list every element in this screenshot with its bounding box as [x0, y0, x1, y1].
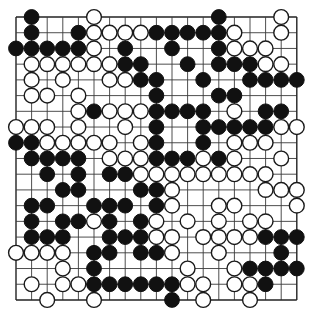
black-stone [258, 230, 273, 245]
white-stone [227, 151, 242, 166]
white-stone [71, 57, 86, 72]
black-stone [118, 230, 133, 245]
white-stone [118, 72, 133, 87]
black-stone [102, 277, 117, 292]
white-stone [133, 104, 148, 119]
white-stone [40, 245, 55, 260]
white-stone [71, 104, 86, 119]
white-stone [55, 261, 70, 276]
black-stone [211, 88, 226, 103]
white-stone [243, 167, 258, 182]
white-stone [165, 198, 180, 213]
white-stone [227, 230, 242, 245]
white-stone [87, 10, 102, 25]
white-stone [165, 167, 180, 182]
white-stone [180, 277, 195, 292]
go-board [0, 0, 312, 315]
white-stone [24, 120, 39, 135]
white-stone [196, 277, 211, 292]
white-stone [227, 277, 242, 292]
black-stone [133, 183, 148, 198]
black-stone [196, 135, 211, 150]
black-stone [180, 151, 195, 166]
black-stone [165, 151, 180, 166]
black-stone [211, 10, 226, 25]
white-stone [289, 183, 304, 198]
white-stone [24, 277, 39, 292]
white-stone [180, 167, 195, 182]
black-stone [24, 230, 39, 245]
black-stone [40, 230, 55, 245]
white-stone [118, 120, 133, 135]
black-stone [227, 57, 242, 72]
white-stone [196, 230, 211, 245]
white-stone [196, 293, 211, 308]
white-stone [55, 277, 70, 292]
black-stone [274, 104, 289, 119]
white-stone [243, 214, 258, 229]
black-stone [274, 261, 289, 276]
white-stone [165, 183, 180, 198]
black-stone [71, 214, 86, 229]
black-stone [211, 151, 226, 166]
black-stone [118, 198, 133, 213]
black-stone [165, 293, 180, 308]
white-stone [71, 88, 86, 103]
black-stone [149, 151, 164, 166]
black-stone [40, 151, 55, 166]
black-stone [55, 41, 70, 56]
white-stone [165, 245, 180, 260]
white-stone [274, 183, 289, 198]
black-stone [24, 214, 39, 229]
black-stone [40, 198, 55, 213]
black-stone [24, 135, 39, 150]
white-stone [118, 25, 133, 40]
black-stone [165, 277, 180, 292]
black-stone [211, 41, 226, 56]
black-stone [24, 151, 39, 166]
white-stone [227, 135, 242, 150]
white-stone [227, 41, 242, 56]
black-stone [149, 245, 164, 260]
white-stone [227, 198, 242, 213]
white-stone [227, 25, 242, 40]
white-stone [243, 277, 258, 292]
white-stone [258, 183, 273, 198]
white-stone [274, 10, 289, 25]
black-stone [227, 120, 242, 135]
black-stone [24, 25, 39, 40]
black-stone [55, 183, 70, 198]
black-stone [196, 120, 211, 135]
black-stone [211, 57, 226, 72]
white-stone [243, 135, 258, 150]
black-stone [149, 104, 164, 119]
black-stone [40, 167, 55, 182]
black-stone [133, 57, 148, 72]
black-stone [71, 151, 86, 166]
black-stone [258, 72, 273, 87]
black-stone [55, 151, 70, 166]
white-stone [258, 214, 273, 229]
black-stone [149, 135, 164, 150]
white-stone [40, 135, 55, 150]
black-stone [24, 10, 39, 25]
black-stone [149, 120, 164, 135]
black-stone [118, 41, 133, 56]
white-stone [71, 277, 86, 292]
black-stone [165, 104, 180, 119]
black-stone [102, 230, 117, 245]
black-stone [274, 245, 289, 260]
white-stone [289, 198, 304, 213]
black-stone [133, 72, 148, 87]
white-stone [55, 72, 70, 87]
white-stone [165, 230, 180, 245]
black-stone [133, 245, 148, 260]
white-stone [133, 135, 148, 150]
black-stone [258, 120, 273, 135]
white-stone [274, 57, 289, 72]
white-stone [40, 88, 55, 103]
black-stone [211, 120, 226, 135]
white-stone [9, 245, 24, 260]
black-stone [258, 277, 273, 292]
white-stone [149, 167, 164, 182]
